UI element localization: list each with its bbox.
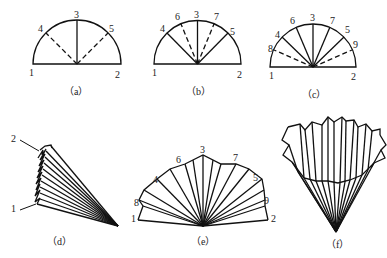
panel-d: 2 1 （d） xyxy=(11,133,118,247)
point-label-3: 3 xyxy=(200,144,205,155)
point-label-1: 1 xyxy=(11,203,16,214)
point-label-5: 5 xyxy=(345,24,350,35)
outer-bulge-left xyxy=(282,127,292,162)
point-label-8: 8 xyxy=(134,197,139,208)
point-label-2: 2 xyxy=(115,69,120,80)
point-label-2: 2 xyxy=(11,133,16,144)
point-label-9: 9 xyxy=(264,195,269,206)
caption-d: （d） xyxy=(47,236,72,247)
point-label-6: 6 xyxy=(290,15,295,26)
point-label-5: 5 xyxy=(109,23,114,34)
point-label-7: 7 xyxy=(233,152,238,163)
fold-lines-d xyxy=(37,146,118,226)
point-label-4: 4 xyxy=(160,23,165,34)
point-label-1: 1 xyxy=(269,70,274,81)
solid-fold-4 xyxy=(282,37,313,67)
panel-e: 1 2 3 4 5 6 7 8 9 （e） xyxy=(131,144,276,247)
dashed-fold-6 xyxy=(181,24,198,64)
caption-a: （a） xyxy=(64,86,88,97)
point-label-5: 5 xyxy=(253,172,258,183)
point-label-2: 2 xyxy=(237,69,242,80)
point-label-3: 3 xyxy=(74,9,79,20)
point-label-6: 6 xyxy=(176,154,181,165)
solid-fold-6 xyxy=(296,27,313,67)
solid-fold-7 xyxy=(313,27,330,67)
caption-e: （e） xyxy=(191,236,215,247)
panel-b: 1 2 3 4 5 6 7 （b） xyxy=(152,9,242,97)
point-label-4: 4 xyxy=(153,174,158,185)
point-label-7: 7 xyxy=(214,11,219,22)
panel-a: 1 2 3 4 5 （a） xyxy=(29,9,121,97)
solid-fold-5 xyxy=(313,37,344,67)
caption-c: （c） xyxy=(302,89,326,100)
solid-fold-4 xyxy=(167,33,198,64)
caption-f: （f） xyxy=(326,239,349,250)
panel-f: （f） xyxy=(282,117,386,250)
point-label-5: 5 xyxy=(230,26,235,37)
point-label-2: 2 xyxy=(351,71,356,82)
dashed-fold-5 xyxy=(77,33,108,64)
dashed-fold-4 xyxy=(46,33,77,64)
point-label-2: 2 xyxy=(271,213,276,224)
point-label-4: 4 xyxy=(38,23,43,34)
panel-c: 1 2 3 4 5 6 7 8 9 （c） xyxy=(268,12,358,100)
point-label-1: 1 xyxy=(152,67,157,78)
solid-fold-5 xyxy=(198,33,229,64)
point-label-7: 7 xyxy=(330,15,335,26)
point-label-9: 9 xyxy=(353,39,358,50)
fan-ribs xyxy=(138,155,268,226)
point-label-4: 4 xyxy=(275,29,280,40)
dashed-fold-7 xyxy=(198,24,215,64)
point-label-6: 6 xyxy=(175,11,180,22)
point-label-3: 3 xyxy=(310,12,315,23)
caption-b: （b） xyxy=(186,86,211,97)
point-label-1: 1 xyxy=(29,67,34,78)
point-label-1: 1 xyxy=(131,213,136,224)
leader-2 xyxy=(20,140,39,151)
point-label-3: 3 xyxy=(194,9,199,20)
leader-1 xyxy=(20,204,36,210)
point-label-8: 8 xyxy=(268,43,273,54)
